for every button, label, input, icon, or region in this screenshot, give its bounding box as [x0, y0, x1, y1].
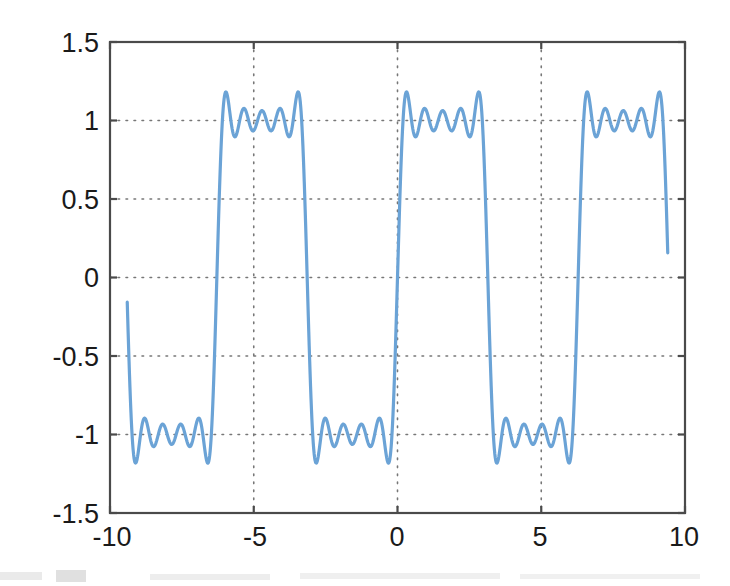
- y-tick-label: -0.5: [52, 342, 99, 372]
- x-tick-label: 0: [389, 522, 404, 552]
- y-tick-label: 0.5: [61, 185, 99, 215]
- x-tick-label: -10: [92, 522, 131, 552]
- y-tick-label: 0: [84, 263, 99, 293]
- y-tick-label: 1.5: [61, 28, 99, 58]
- x-tick-label: 5: [532, 522, 547, 552]
- y-tick-label: -1: [75, 420, 99, 450]
- chart-canvas: 1.5 1 0.5 0 -0.5 -1 -1.5 -10 -5 0 5 10: [0, 0, 730, 586]
- figure-container: 1.5 1 0.5 0 -0.5 -1 -1.5 -10 -5 0 5 10: [0, 0, 730, 586]
- x-tick-label: 10: [669, 522, 699, 552]
- y-tick-label: 1: [84, 106, 99, 136]
- x-tick-label: -5: [243, 522, 267, 552]
